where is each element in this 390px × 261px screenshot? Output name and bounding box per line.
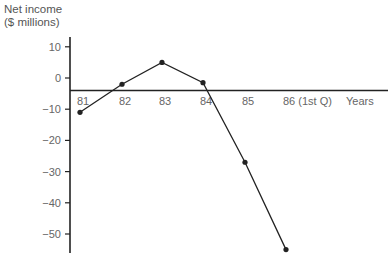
data-point bbox=[283, 247, 288, 252]
y-tick-label: −30 bbox=[42, 166, 61, 178]
y-tick-label: 10 bbox=[49, 41, 61, 53]
data-point bbox=[77, 110, 82, 115]
x-tick-label: 86 (1st Q) bbox=[283, 95, 332, 107]
y-tick-label: −20 bbox=[42, 134, 61, 146]
x-tick-label: 83 bbox=[159, 95, 171, 107]
x-tick-label: 85 bbox=[242, 95, 254, 107]
x-tick-label: 82 bbox=[119, 95, 131, 107]
series-net-income bbox=[77, 60, 288, 252]
y-axis: 100−10−20−30−40−50 bbox=[42, 37, 70, 253]
x-tick-label: 81 bbox=[77, 95, 89, 107]
y-tick-label: −10 bbox=[42, 103, 61, 115]
y-tick-label: −50 bbox=[42, 228, 61, 240]
line-chart: 100−10−20−30−40−50 818283848586 (1st Q)Y… bbox=[0, 0, 390, 261]
data-point bbox=[119, 82, 124, 87]
y-tick-label: 0 bbox=[55, 72, 61, 84]
x-axis-label: Years bbox=[346, 95, 374, 107]
x-axis: 818283848586 (1st Q)Years bbox=[70, 90, 388, 107]
y-tick-label: −40 bbox=[42, 197, 61, 209]
data-point bbox=[200, 80, 205, 85]
data-point bbox=[159, 60, 164, 65]
data-point bbox=[242, 160, 247, 165]
